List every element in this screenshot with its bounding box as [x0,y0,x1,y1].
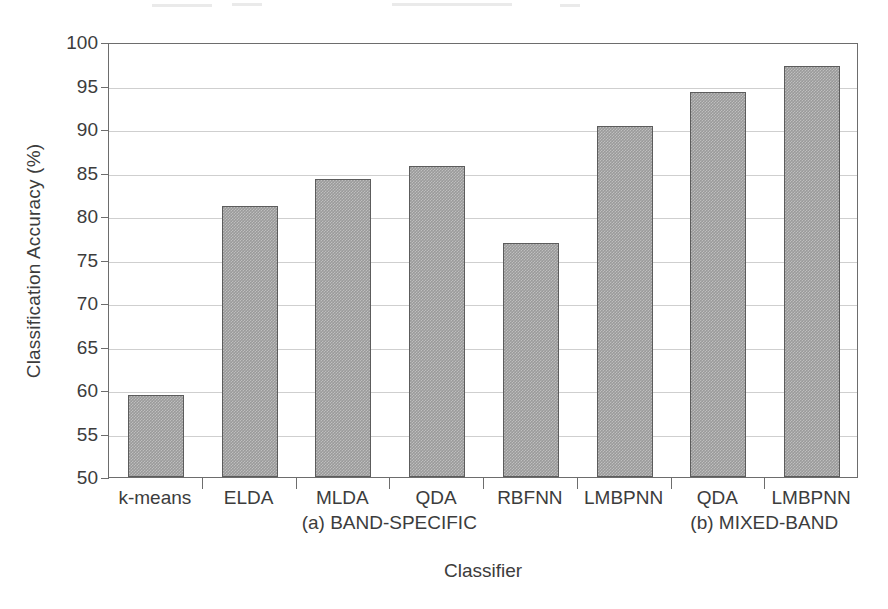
bar [690,92,746,477]
y-axis-tick-label: 70 [42,294,98,313]
x-axis-category-label: LMBPNN [764,487,858,509]
bar [315,179,371,477]
y-axis-tick-label: 60 [42,381,98,400]
bar [597,126,653,477]
x-axis-group-label: (b) MIXED-BAND [671,512,859,534]
y-axis-tick-mark [101,478,109,479]
bar [409,166,465,477]
x-axis-category-label: QDA [389,487,483,509]
plot-area [108,43,858,478]
y-axis-tick-label: 55 [42,425,98,444]
y-axis-tick-label: 90 [42,120,98,139]
bar-chart-figure: Classification Accuracy (%) 505560657075… [0,0,888,609]
x-axis-category-label: MLDA [296,487,390,509]
bar [503,243,559,477]
y-axis-tick-label: 100 [42,33,98,52]
y-axis-tick-label: 65 [42,338,98,357]
gridline [109,88,857,89]
y-axis-tick-label: 95 [42,77,98,96]
bar [784,66,840,477]
y-axis-tick-label: 85 [42,164,98,183]
x-axis-group-label: (a) BAND-SPECIFIC [108,512,671,534]
x-axis-category-label: QDA [671,487,765,509]
bar [222,206,278,477]
bar [128,395,184,477]
x-axis-category-label: RBFNN [483,487,577,509]
x-axis-category-label: LMBPNN [577,487,671,509]
y-axis-tick-label: 50 [42,468,98,487]
x-axis-title: Classifier [108,560,858,582]
y-axis-tick-label: 75 [42,251,98,270]
y-axis-tick-label: 80 [42,207,98,226]
x-axis-category-label: ELDA [202,487,296,509]
x-axis-category-label: k-means [108,487,202,509]
